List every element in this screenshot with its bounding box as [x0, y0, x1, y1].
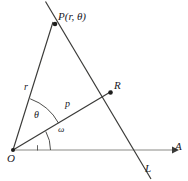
line-label-L: L	[145, 163, 151, 174]
point-label-R: R	[114, 80, 121, 91]
angle-arc-omega	[46, 132, 51, 151]
point-marker-R	[108, 90, 113, 95]
segment-label-p: p	[65, 99, 70, 109]
angle-label-theta: θ	[34, 110, 39, 120]
segment-p-OR	[13, 91, 112, 150]
angle-label-omega: ω	[58, 125, 64, 134]
point-label-P: P(r, θ)	[58, 11, 86, 22]
polar-line-diagram: P(r, θ) R r p θ ω O A L	[0, 0, 188, 181]
point-marker-P	[53, 22, 58, 27]
segment-label-r: r	[24, 82, 28, 92]
polar-axis-ray	[13, 147, 179, 154]
point-label-O: O	[7, 153, 15, 164]
line-L	[46, 2, 152, 180]
diagram-canvas	[0, 0, 188, 181]
axis-label-A: A	[175, 141, 182, 152]
segment-r-OP	[13, 22, 53, 150]
